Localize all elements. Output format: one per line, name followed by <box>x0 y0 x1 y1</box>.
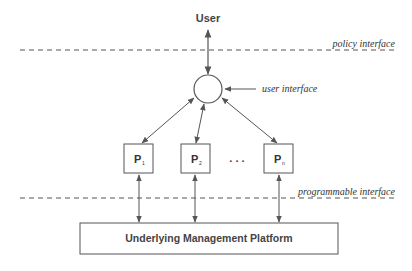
user-interface-node <box>194 75 222 103</box>
process-subscript: 2 <box>199 160 202 166</box>
user-interface-label: user interface <box>262 83 318 94</box>
process-label: P <box>191 153 198 165</box>
p1-circle-arrow <box>142 98 194 143</box>
pn-circle-arrow <box>222 98 277 143</box>
architecture-diagram: User policy interface user interface P 1… <box>0 0 412 271</box>
process-subscript: 1 <box>142 160 145 166</box>
ellipsis: . . . <box>229 152 244 164</box>
platform-box: Underlying Management Platform <box>80 223 338 254</box>
process-box-p1: P 1 <box>124 144 153 173</box>
process-box-pn: P n <box>264 144 293 173</box>
platform-label: Underlying Management Platform <box>125 232 292 244</box>
programmable-interface-label: programmable interface <box>297 186 396 197</box>
process-box-p2: P 2 <box>181 144 210 173</box>
process-subscript: n <box>282 160 285 166</box>
process-label: P <box>274 153 281 165</box>
user-label: User <box>196 12 221 24</box>
p2-circle-arrow <box>196 104 204 143</box>
process-label: P <box>134 153 141 165</box>
policy-interface-label: policy interface <box>332 38 396 49</box>
